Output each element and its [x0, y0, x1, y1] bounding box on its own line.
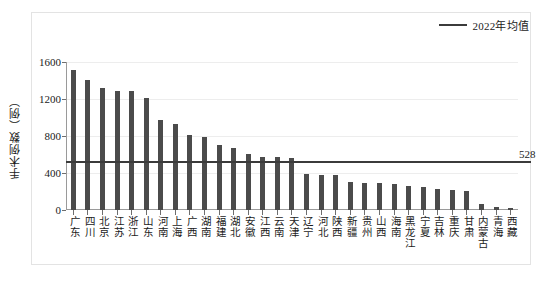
- x-tick-slot: [168, 210, 183, 215]
- average-value-label: 528: [519, 148, 536, 160]
- y-tick-label: 400: [45, 167, 62, 179]
- x-label-slot: 上海: [168, 216, 183, 274]
- bar-slot: [153, 62, 168, 210]
- x-tick-mark: [219, 210, 220, 215]
- x-label-slot: 湖南: [197, 216, 212, 274]
- x-tick-label: 浙江: [125, 216, 138, 274]
- bar-slot: [256, 62, 271, 210]
- x-tick-mark: [481, 210, 482, 215]
- x-tick-slot: [328, 210, 343, 215]
- x-tick-mark: [437, 210, 438, 215]
- x-tick-label: 重庆: [446, 216, 459, 274]
- x-label-slot: 福建: [212, 216, 227, 274]
- chart-legend: 2022年均值: [439, 17, 529, 33]
- x-tick-mark: [73, 210, 74, 215]
- x-label-slot: 内蒙古: [474, 216, 489, 274]
- bar[interactable]: [217, 145, 222, 210]
- x-tick-slot: [387, 210, 402, 215]
- bar-slot: [387, 62, 402, 210]
- bar[interactable]: [173, 124, 178, 210]
- bar[interactable]: [115, 91, 120, 210]
- average-line-extension: [518, 161, 531, 163]
- x-label-slot: 陕西: [328, 216, 343, 274]
- bar[interactable]: [100, 88, 105, 210]
- x-tick-slot: [445, 210, 460, 215]
- bar-slot: [168, 62, 183, 210]
- bar[interactable]: [275, 157, 280, 210]
- bar[interactable]: [231, 148, 236, 210]
- x-label-slot: 浙江: [124, 216, 139, 274]
- x-tick-label: 湖南: [198, 216, 211, 274]
- bar[interactable]: [435, 189, 440, 210]
- bar[interactable]: [348, 182, 353, 210]
- x-tick-slot: [66, 210, 81, 215]
- bar[interactable]: [71, 70, 76, 210]
- x-tick-mark: [160, 210, 161, 215]
- x-tick-label: 河北: [315, 216, 328, 274]
- bar[interactable]: [333, 175, 338, 210]
- x-tick-slot: [256, 210, 271, 215]
- bar[interactable]: [319, 175, 324, 210]
- bar[interactable]: [144, 98, 149, 210]
- bar-slot: [489, 62, 504, 210]
- bar[interactable]: [464, 191, 469, 210]
- bar-slot: [197, 62, 212, 210]
- x-tick-slot: [197, 210, 212, 215]
- bar-slot: [474, 62, 489, 210]
- x-tick-mark: [262, 210, 263, 215]
- x-label-slot: 吉林: [430, 216, 445, 274]
- bar[interactable]: [421, 187, 426, 210]
- bar[interactable]: [187, 135, 192, 210]
- bar-slot: [416, 62, 431, 210]
- bar[interactable]: [289, 158, 294, 210]
- x-tick-label: 陕西: [329, 216, 342, 274]
- bar[interactable]: [392, 184, 397, 210]
- bar[interactable]: [129, 91, 134, 210]
- x-tick-label: 广东: [67, 216, 80, 274]
- x-tick-label: 河南: [155, 216, 168, 274]
- x-tick-label: 江西: [257, 216, 270, 274]
- bar[interactable]: [304, 174, 309, 210]
- bar-slot: [460, 62, 475, 210]
- x-tick-mark: [423, 210, 424, 215]
- x-label-slot: 河南: [153, 216, 168, 274]
- x-label-slot: 北京: [95, 216, 110, 274]
- x-tick-mark: [364, 210, 365, 215]
- x-axis-labels: 广东四川北京江苏浙江山东河南上海广西湖南福建湖北安徽江西云南天津辽宁河北陕西新疆…: [66, 216, 518, 274]
- bar-slot: [430, 62, 445, 210]
- bar[interactable]: [362, 183, 367, 210]
- x-label-slot: 安徽: [241, 216, 256, 274]
- x-label-slot: 四川: [81, 216, 96, 274]
- x-tick-mark: [248, 210, 249, 215]
- x-tick-mark: [466, 210, 467, 215]
- x-tick-mark: [408, 210, 409, 215]
- x-tick-slot: [358, 210, 373, 215]
- legend-label-average: 2022年均值: [473, 17, 529, 33]
- bar[interactable]: [260, 157, 265, 210]
- x-tick-label: 安徽: [242, 216, 255, 274]
- bar[interactable]: [202, 137, 207, 210]
- x-tick-slot: [212, 210, 227, 215]
- x-tick-label: 广西: [184, 216, 197, 274]
- x-tick-slot: [416, 210, 431, 215]
- bar[interactable]: [85, 80, 90, 210]
- x-label-slot: 青海: [489, 216, 504, 274]
- x-tick-label: 甘肃: [461, 216, 474, 274]
- x-label-slot: 新疆: [343, 216, 358, 274]
- bar-slot: [212, 62, 227, 210]
- bar-slot: [81, 62, 96, 210]
- x-tick-label: 海南: [388, 216, 401, 274]
- bar[interactable]: [450, 190, 455, 210]
- bar[interactable]: [158, 120, 163, 210]
- bar-slot: [139, 62, 154, 210]
- x-tick-label: 宁夏: [417, 216, 430, 274]
- bar[interactable]: [377, 183, 382, 210]
- bar-slot: [110, 62, 125, 210]
- x-tick-mark: [87, 210, 88, 215]
- x-tick-label: 云南: [271, 216, 284, 274]
- y-axis-title: 手术例数（例）: [7, 62, 23, 212]
- bar-slot: [445, 62, 460, 210]
- x-tick-mark: [233, 210, 234, 215]
- bar[interactable]: [406, 186, 411, 210]
- bar-slot: [328, 62, 343, 210]
